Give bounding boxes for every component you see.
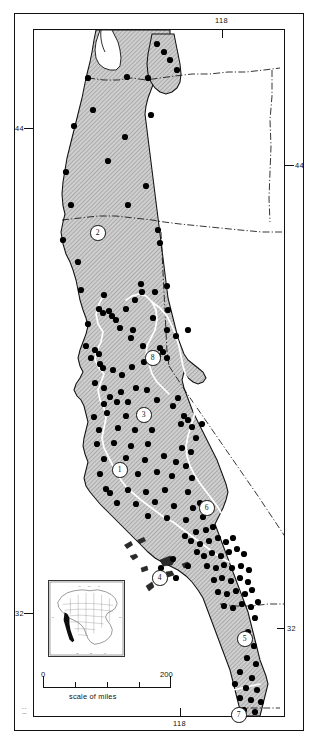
corner-credit: • • ••• — [22, 706, 26, 716]
label-right-44: 44 — [295, 161, 304, 170]
credit-line-2: ••• — [22, 711, 26, 716]
scale-caption: scale of miles — [69, 692, 117, 701]
scale-tick-end — [170, 676, 171, 688]
tick-left-44 — [24, 128, 33, 129]
region-marker-1[interactable]: 1 — [112, 462, 128, 478]
region-marker-4[interactable]: 4 — [152, 570, 168, 586]
tick-right-32 — [277, 628, 285, 629]
scale-tick-2 — [107, 682, 108, 688]
scale-tick-3 — [139, 682, 140, 688]
tick-left-32 — [24, 613, 33, 614]
tick-bottom-118 — [180, 708, 181, 717]
tick-top-118 — [222, 29, 223, 38]
scale-tick-start — [43, 676, 44, 688]
region-marker-2[interactable]: 2 — [90, 225, 106, 241]
label-bottom-118: 118 — [173, 719, 186, 728]
region-marker-8[interactable]: 8 — [145, 350, 161, 366]
region-marker-3[interactable]: 3 — [136, 407, 152, 423]
scale-tick-1 — [75, 682, 76, 688]
label-left-32: 32 — [15, 609, 24, 618]
region-marker-7[interactable]: 7 — [231, 707, 247, 723]
region-marker-5[interactable]: 5 — [237, 631, 253, 647]
tick-right-44 — [285, 165, 294, 166]
inset-locator-map: 6050 40 3020 40 4030 — [48, 580, 125, 657]
label-left-44: 44 — [15, 124, 24, 133]
distribution-map: 118 44 44 32 32 118 1 2 3 4 5 6 7 8 — [0, 0, 318, 747]
inset-artwork: 6050 40 3020 40 4030 — [49, 581, 124, 656]
label-right-32: 32 — [287, 624, 296, 633]
region-marker-6[interactable]: 6 — [199, 500, 215, 516]
label-top-118: 118 — [215, 16, 228, 25]
